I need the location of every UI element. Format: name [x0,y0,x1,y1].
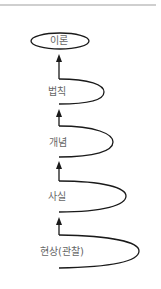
law-label: 법칙 [48,86,66,98]
arrow-up-icon [56,161,62,169]
arrow-up-icon [56,54,62,62]
concept-label: 개념 [49,137,67,149]
phenomenon-label: 현상(관찰) [40,246,84,258]
fact-step [56,161,126,212]
phenomenon-step [56,217,139,268]
fact-label: 사실 [48,191,66,203]
arrow-up-icon [56,217,62,225]
concept-step [56,109,113,157]
arrow-up-icon [56,109,62,117]
theory-label: 이론 [50,35,68,47]
